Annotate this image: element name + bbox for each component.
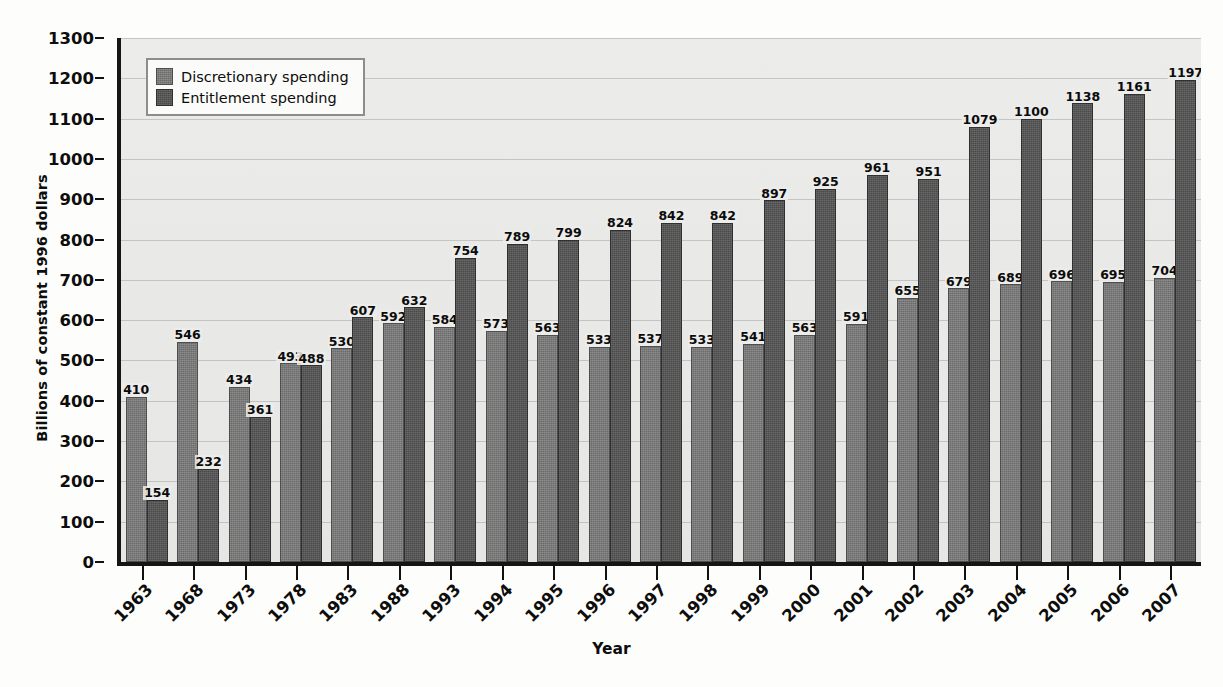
bar[interactable]: 655	[897, 298, 918, 562]
bar-group: 6951161	[1098, 38, 1149, 562]
bar[interactable]: 824	[610, 230, 631, 562]
bar-value-label: 842	[709, 209, 737, 223]
x-axis-tick-label: 2006	[1087, 580, 1133, 626]
bar[interactable]: 563	[794, 335, 815, 562]
bar[interactable]: 591	[846, 324, 867, 562]
bar-group: 410154	[121, 38, 172, 562]
legend-item-entitlement: Entitlement spending	[156, 87, 349, 108]
bar[interactable]: 1197	[1175, 80, 1196, 562]
bar[interactable]: 961	[867, 175, 888, 562]
x-axis-tick-cell	[734, 566, 785, 580]
y-axis-tick-label: 900	[60, 190, 94, 209]
bar-group: 655951	[892, 38, 943, 562]
x-axis-tick-label: 1996	[573, 580, 619, 626]
bar[interactable]: 584	[434, 327, 455, 562]
bar[interactable]: 530	[331, 348, 352, 562]
y-axis-tick-label: 1000	[48, 149, 94, 168]
bar[interactable]: 1161	[1124, 94, 1145, 562]
bar-value-label: 1138	[1064, 90, 1101, 104]
bar[interactable]: 696	[1051, 281, 1072, 562]
x-axis-tick-labels: 1963196819731978198319881993199419951996…	[117, 580, 1197, 640]
bar[interactable]: 897	[764, 200, 785, 562]
x-axis-tick-mark	[1170, 566, 1172, 580]
x-axis-tick-cell	[580, 566, 631, 580]
bar[interactable]: 154	[147, 500, 168, 562]
y-axis-tick-mark	[95, 279, 104, 281]
bar-group: 6791079	[944, 38, 995, 562]
bar[interactable]: 546	[177, 342, 198, 562]
bar[interactable]: 951	[918, 179, 939, 562]
x-axis-label-cell: 1978	[271, 580, 322, 640]
y-axis-tick-label: 600	[60, 311, 94, 330]
bar-value-label: 961	[863, 161, 891, 175]
bar[interactable]: 607	[352, 317, 373, 562]
bar[interactable]: 533	[691, 347, 712, 562]
bar[interactable]: 754	[455, 258, 476, 562]
bar[interactable]: 592	[383, 323, 404, 562]
y-axis-tick-mark	[95, 561, 104, 563]
x-axis-tick-cell	[837, 566, 888, 580]
bar[interactable]: 541	[743, 344, 764, 562]
bar[interactable]: 1079	[969, 127, 990, 562]
bar[interactable]: 533	[589, 347, 610, 562]
bar[interactable]: 842	[712, 223, 733, 562]
y-axis-tick-mark	[95, 480, 104, 482]
bar[interactable]: 842	[661, 223, 682, 562]
x-axis-tick-label: 2000	[779, 580, 825, 626]
y-axis-tick-label: 0	[83, 553, 94, 572]
bar[interactable]: 232	[198, 469, 219, 563]
y-axis-tick-label: 200	[60, 472, 94, 491]
x-axis-label-cell: 2002	[888, 580, 939, 640]
bar-group: 530607	[327, 38, 378, 562]
x-axis-tick-cell	[785, 566, 836, 580]
x-axis-label-cell: 2007	[1145, 580, 1196, 640]
x-axis-tick-cell	[1043, 566, 1094, 580]
legend-label-entitlement: Entitlement spending	[181, 90, 337, 106]
bar[interactable]: 632	[404, 307, 425, 562]
bar-value-label: 799	[555, 226, 583, 240]
y-axis-tick-labels: 1300120011001000900800700600500400300200…	[18, 38, 104, 562]
x-axis-label-cell: 1999	[734, 580, 785, 640]
x-axis-tick-mark	[1067, 566, 1069, 580]
x-axis-label-cell: 2000	[785, 580, 836, 640]
x-axis-tick-cell	[323, 566, 374, 580]
legend-item-discretionary: Discretionary spending	[156, 66, 349, 87]
bar[interactable]: 563	[537, 335, 558, 562]
bar-value-label: 1100	[1013, 105, 1050, 119]
bar-series-container: 4101545462324343614934885306075926325847…	[121, 38, 1201, 562]
bar[interactable]: 679	[948, 288, 969, 562]
bar[interactable]: 361	[250, 417, 271, 563]
y-axis-tick-label: 1100	[48, 109, 94, 128]
bar[interactable]: 925	[815, 189, 836, 562]
x-axis-tick-label: 1973	[213, 580, 259, 626]
bar-value-label: 1161	[1116, 80, 1153, 94]
x-axis-tick-label: 1963	[110, 580, 156, 626]
bar[interactable]: 695	[1103, 282, 1124, 562]
x-axis-tick-cell	[1145, 566, 1196, 580]
bar[interactable]: 1100	[1021, 119, 1042, 562]
bar[interactable]: 410	[126, 397, 147, 562]
bar[interactable]: 799	[558, 240, 579, 562]
x-axis-tick-cell	[477, 566, 528, 580]
bar-group: 541897	[738, 38, 789, 562]
x-axis-tick-mark	[553, 566, 555, 580]
x-axis-tick-cell	[374, 566, 425, 580]
bar[interactable]: 789	[507, 244, 528, 562]
bar[interactable]: 493	[280, 363, 301, 562]
x-axis-tick-mark	[193, 566, 195, 580]
x-axis-label-cell: 1988	[374, 580, 425, 640]
bar[interactable]: 689	[1000, 284, 1021, 562]
x-axis-label-cell: 1983	[323, 580, 374, 640]
bar[interactable]: 1138	[1072, 103, 1093, 562]
x-axis-tick-label: 1998	[676, 580, 722, 626]
bar[interactable]: 537	[640, 346, 661, 562]
bar-group: 493488	[275, 38, 326, 562]
x-axis-label-cell: 2003	[940, 580, 991, 640]
bar[interactable]: 488	[301, 365, 322, 562]
legend-label-discretionary: Discretionary spending	[181, 69, 349, 85]
bar[interactable]: 573	[486, 331, 507, 562]
bar-group: 563925	[789, 38, 840, 562]
bar[interactable]: 704	[1154, 278, 1175, 562]
x-axis-tick-mark	[605, 566, 607, 580]
x-axis-tick-mark	[964, 566, 966, 580]
